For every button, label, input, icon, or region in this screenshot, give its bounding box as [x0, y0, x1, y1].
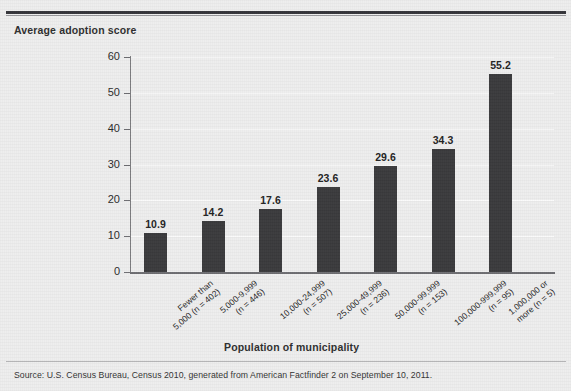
y-axis-tick — [124, 93, 130, 94]
bar — [489, 74, 512, 272]
x-axis-line — [130, 272, 555, 274]
bar — [202, 221, 225, 272]
y-axis-tick — [124, 200, 130, 201]
y-axis-tick-label: 40 — [92, 122, 120, 134]
x-axis-category-label: 1,000,000 ormore (n = 5) — [506, 278, 556, 325]
y-axis-tick-label: 20 — [92, 193, 120, 205]
y-axis-tick — [124, 57, 130, 58]
y-axis-tick-label: 0 — [92, 265, 120, 277]
x-axis-category-label: 10,000-24,999(n = 507) — [277, 278, 333, 330]
bar-value-label: 17.6 — [248, 194, 294, 206]
top-rule — [6, 11, 566, 14]
bar-value-label: 14.2 — [190, 206, 236, 218]
cropped-figure-title — [14, 0, 434, 7]
bar — [317, 187, 340, 272]
y-axis-line — [130, 56, 131, 273]
plot-area — [130, 57, 554, 272]
x-axis-category-label: 5,000-9,999(n = 446) — [218, 278, 267, 324]
gridline — [130, 57, 554, 58]
x-axis-category-label: 50,000-99,999(n = 153) — [392, 278, 448, 330]
bar — [374, 166, 397, 272]
bar-value-label: 10.9 — [133, 218, 179, 230]
source-note: Source: U.S. Census Bureau, Census 2010,… — [14, 370, 432, 380]
y-axis-tick-label: 30 — [92, 158, 120, 170]
bar-value-label: 34.3 — [420, 134, 466, 146]
top-rule-thin — [6, 15, 566, 16]
bar-value-label: 55.2 — [478, 59, 524, 71]
figure-panel: Average adoption score 0102030405060 10.… — [0, 0, 571, 391]
bar — [259, 209, 282, 272]
x-axis-title: Population of municipality — [224, 341, 359, 353]
bar-value-label: 29.6 — [363, 151, 409, 163]
y-axis-tick — [124, 129, 130, 130]
y-axis-tick — [124, 272, 130, 273]
y-axis-title: Average adoption score — [14, 24, 137, 36]
x-axis-category-label: 100,000-999,999(n = 95) — [452, 278, 515, 336]
y-axis-tick — [124, 236, 130, 237]
bar-value-label: 23.6 — [305, 172, 351, 184]
y-axis-tick-label: 10 — [92, 229, 120, 241]
bar — [144, 233, 167, 272]
x-axis-category-label: 25,000-49,999(n = 236) — [335, 278, 391, 330]
bar — [432, 149, 455, 272]
y-axis-tick-label: 60 — [92, 50, 120, 62]
bottom-rule — [6, 361, 566, 362]
y-axis-tick — [124, 165, 130, 166]
y-axis-tick-label: 50 — [92, 86, 120, 98]
x-axis-category-label: Fewer than5,000 (n = 402) — [163, 278, 221, 332]
